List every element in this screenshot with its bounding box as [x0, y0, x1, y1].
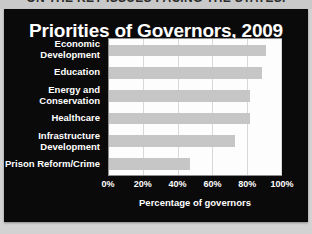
plot-area — [108, 38, 282, 176]
category-label: Energy andConservation — [4, 84, 104, 107]
category-label-line: Infrastructure — [38, 131, 100, 142]
category-axis-labels: EconomicDevelopmentEducationEnergy andCo… — [4, 38, 104, 176]
category-label-line: Economic — [55, 39, 100, 50]
category-label-line: Healthcare — [51, 113, 100, 124]
bar-rows — [109, 39, 281, 175]
gridline — [281, 39, 282, 175]
category-label: EconomicDevelopment — [4, 38, 104, 61]
bar-row — [109, 84, 281, 107]
category-label-line: Conservation — [39, 96, 100, 107]
bar — [109, 158, 190, 170]
x-tick-label: 100% — [270, 179, 293, 189]
bar — [109, 135, 235, 147]
x-axis-ticks: 0%20%40%60%80%100% — [108, 179, 282, 191]
bar — [109, 67, 262, 79]
category-label-line: Prison Reform/Crime — [5, 159, 100, 170]
category-label-line: Education — [54, 67, 100, 78]
bar — [109, 113, 250, 125]
bar-row — [109, 62, 281, 85]
x-tick-label: 60% — [203, 179, 221, 189]
chart-panel: Priorities of Governors, 2009 EconomicDe… — [4, 9, 308, 222]
chart-figure: ON THE KEY ISSUES FACING THE STATES. Pri… — [0, 0, 312, 234]
category-label: Healthcare — [4, 107, 104, 130]
category-label-line: Development — [40, 50, 100, 61]
x-axis-label: Percentage of governors — [108, 197, 282, 208]
category-label-line: Energy and — [48, 85, 100, 96]
bar — [109, 90, 250, 102]
category-label: Prison Reform/Crime — [4, 153, 104, 176]
bar-row — [109, 107, 281, 130]
category-label: InfrastructureDevelopment — [4, 130, 104, 153]
bar-row — [109, 130, 281, 153]
x-tick-label: 0% — [101, 179, 114, 189]
kicker-text: ON THE KEY ISSUES FACING THE STATES. — [26, 0, 286, 5]
bar — [109, 45, 266, 57]
bar-row — [109, 152, 281, 175]
x-tick-label: 40% — [169, 179, 187, 189]
category-label-line: Development — [40, 142, 100, 153]
kicker-strip: ON THE KEY ISSUES FACING THE STATES. — [0, 0, 312, 9]
category-label: Education — [4, 61, 104, 84]
x-tick-label: 20% — [134, 179, 152, 189]
bar-row — [109, 39, 281, 62]
x-tick-label: 80% — [238, 179, 256, 189]
